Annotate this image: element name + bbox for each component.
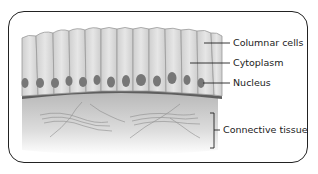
label-connective-tissue: Connective tissue [223,125,308,135]
label-columnar-cells: Columnar cells [233,38,303,48]
label-cytoplasm: Cytoplasm [233,58,284,68]
connective-tissue [22,92,218,155]
label-nucleus: Nucleus [233,78,271,88]
